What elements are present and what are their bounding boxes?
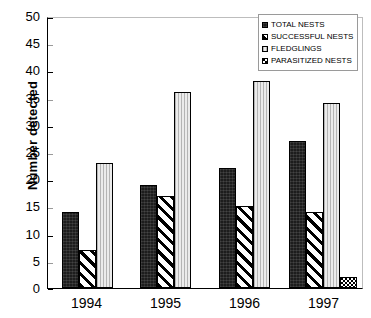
bar [253, 81, 270, 288]
y-axis-tick-labels: 50454035302520151050 [0, 0, 44, 318]
y-tick-label: 5 [0, 255, 40, 268]
y-tick-label: 40 [0, 64, 40, 77]
x-tick-label: 1997 [284, 295, 363, 315]
bar-chart: Number detected 50454035302520151050 199… [0, 0, 371, 318]
bar [306, 212, 323, 288]
x-tick-label: 1996 [205, 295, 284, 315]
y-tick-label: 15 [0, 200, 40, 213]
bar-group-1995 [127, 18, 206, 288]
legend-item: SUCCESSFUL NESTS [262, 31, 353, 42]
bar [96, 163, 113, 288]
bar [174, 92, 191, 288]
x-tick-label: 1995 [126, 295, 205, 315]
bar [157, 196, 174, 288]
x-tick-label: 1994 [47, 295, 126, 315]
bar [340, 277, 357, 288]
legend-label: FLEDGLINGS [271, 45, 322, 53]
x-axis-tick-labels: 1994199519961997 [47, 295, 363, 315]
y-tick-label: 0 [0, 282, 40, 295]
bar [140, 185, 157, 288]
legend-item: FLEDGLINGS [262, 43, 353, 54]
chart-legend: TOTAL NESTSSUCCESSFUL NESTSFLEDGLINGSPAR… [258, 14, 358, 71]
legend-label: SUCCESSFUL NESTS [271, 33, 353, 41]
legend-swatch-icon [262, 46, 268, 52]
legend-item: PARASITIZED NESTS [262, 55, 353, 66]
bar [62, 212, 79, 288]
y-tick-label: 45 [0, 37, 40, 50]
bar [289, 141, 306, 288]
y-tick-label: 25 [0, 146, 40, 159]
legend-item: TOTAL NESTS [262, 19, 353, 30]
y-tick-label: 10 [0, 228, 40, 241]
legend-swatch-icon [262, 58, 268, 64]
legend-swatch-icon [262, 34, 268, 40]
bar-group-1994 [48, 18, 127, 288]
y-tick-label: 20 [0, 173, 40, 186]
bar [323, 103, 340, 288]
legend-swatch-icon [262, 22, 268, 28]
legend-label: TOTAL NESTS [271, 21, 325, 29]
bar [236, 206, 253, 288]
legend-label: PARASITIZED NESTS [271, 57, 352, 65]
bar [219, 168, 236, 288]
y-tick-label: 50 [0, 10, 40, 23]
y-tick-label: 30 [0, 119, 40, 132]
bar [79, 250, 96, 288]
y-tick-mark [48, 289, 53, 290]
y-tick-label: 35 [0, 92, 40, 105]
